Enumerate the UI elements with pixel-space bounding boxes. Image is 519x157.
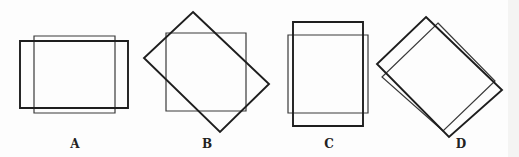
panel-c-thick-rectangle (293, 22, 363, 126)
panel-d-shapes (377, 17, 502, 137)
panel-a-thick-rectangle (20, 41, 128, 108)
panel-a-thin-rectangle (34, 36, 115, 113)
shapes-svg (0, 0, 519, 157)
panel-c-label: C (324, 137, 334, 151)
panel-b-label: B (202, 137, 212, 151)
figure-canvas: A B C D (0, 0, 519, 157)
panel-b-thin-square (166, 33, 246, 111)
panel-b-rotated-rectangle (144, 12, 269, 132)
panel-d-thick-rectangle (377, 17, 502, 137)
panel-b-shapes (144, 12, 269, 132)
panel-d-label: D (456, 137, 466, 151)
panel-c-thin-rectangle (288, 35, 368, 113)
panel-d-thin-rectangle (382, 23, 495, 131)
panel-a-label: A (70, 137, 79, 151)
panel-c-shapes (288, 22, 368, 126)
panel-a-shapes (20, 36, 128, 113)
